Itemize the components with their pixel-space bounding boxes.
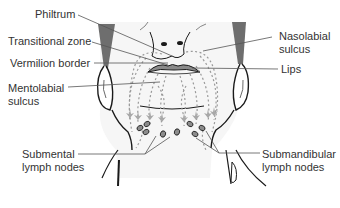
label-mentolabial-line1: Mentolabial	[8, 82, 64, 95]
label-nasolabial-sulcus: Nasolabial sulcus	[279, 30, 330, 55]
label-philtrum: Philtrum	[35, 8, 75, 21]
label-submental-line2: lymph nodes	[22, 161, 84, 174]
label-lips: Lips	[281, 63, 301, 76]
label-submandibular-line2: lymph nodes	[262, 161, 336, 174]
label-vermilion-border: Vermilion border	[10, 57, 90, 70]
label-submental-line1: Submental	[22, 148, 84, 161]
label-mentolabial-line2: sulcus	[8, 95, 64, 108]
label-transitional-zone: Transitional zone	[8, 35, 91, 48]
label-nasolabial-line2: sulcus	[279, 43, 330, 56]
label-nasolabial-line1: Nasolabial	[279, 30, 330, 43]
label-submandibular-line1: Submandibular	[262, 148, 336, 161]
label-submandibular-lymph-nodes: Submandibular lymph nodes	[262, 148, 336, 173]
label-mentolabial-sulcus: Mentolabial sulcus	[8, 82, 64, 107]
label-submental-lymph-nodes: Submental lymph nodes	[22, 148, 84, 173]
